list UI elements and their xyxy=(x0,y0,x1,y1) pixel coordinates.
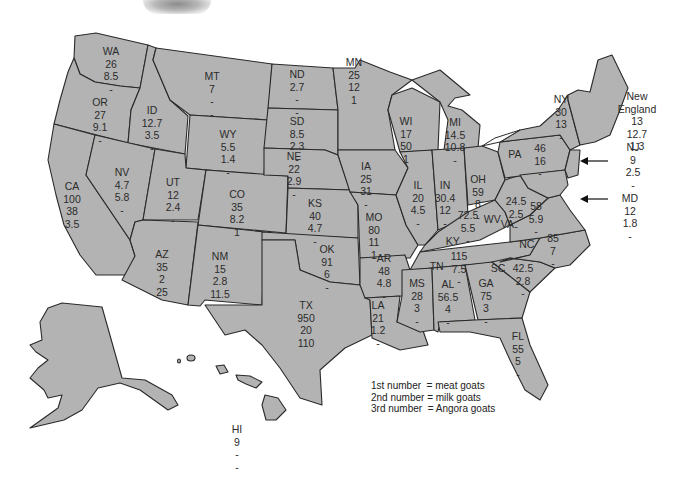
state-abbr: ID xyxy=(142,104,162,117)
meat-goats-value: 80 xyxy=(366,224,383,237)
state-abbr: PA xyxy=(508,148,521,161)
milk-goats-value: 50 xyxy=(400,140,413,153)
meat-goats-value: 12.7 xyxy=(142,117,162,130)
angora-goats-value: - xyxy=(438,316,458,329)
state-label-nm: NM152.811.5 xyxy=(210,250,230,300)
state-label-fl: FL555- xyxy=(512,330,524,380)
state-abbr: MD xyxy=(622,192,638,205)
island-oahu xyxy=(216,365,228,374)
angora-goats-value: 1 xyxy=(400,153,413,166)
state-shape-IA xyxy=(338,150,408,195)
angora-goats-value: - xyxy=(92,134,108,147)
state-label-ks: KS404.7- xyxy=(308,197,323,247)
island-kauai xyxy=(187,355,195,361)
angora-goats-value: - xyxy=(512,368,524,381)
milk-goats-value: 1.2 xyxy=(371,324,386,337)
meat-goats-value: 2.7 xyxy=(289,81,304,94)
legend: 1st number = meat goats 2nd number = mil… xyxy=(371,380,495,415)
state-abbr: OH xyxy=(470,173,486,186)
state-label-co: CO358.21 xyxy=(229,188,245,238)
state-label-ny: NY3013- xyxy=(554,93,569,143)
state-label-ut: UT122.4- xyxy=(166,176,181,226)
milk-goats-value: 2.4 xyxy=(166,201,181,214)
state-label-va: VA585.9- xyxy=(529,200,544,238)
meat-goats-value: 24.5 xyxy=(506,195,526,208)
meat-goats-value: 17 xyxy=(400,128,413,141)
state-abbr: MI xyxy=(445,116,465,129)
milk-goats-value: 1.8 xyxy=(622,217,638,230)
state-abbr: MN xyxy=(346,56,362,69)
angora-goats-value: - xyxy=(232,461,243,474)
state-abbr: IA xyxy=(360,160,372,173)
milk-goats-value: 7.5 xyxy=(451,263,468,276)
meat-goats-value: 4.7 xyxy=(115,179,130,192)
milk-goats-value: - xyxy=(204,95,219,108)
state-abbr: TX xyxy=(297,299,315,312)
meat-goats-value: 8.5 xyxy=(290,128,305,141)
angora-goats-value: - xyxy=(371,337,386,350)
meat-goats-value: 35 xyxy=(155,261,168,274)
md-arrow-head xyxy=(580,195,588,203)
meat-goats-value: 5.5 xyxy=(220,141,237,154)
state-abbr: KY xyxy=(446,235,460,248)
state-abbr: CA xyxy=(63,180,81,193)
state-abbr: HI xyxy=(232,423,243,436)
meat-goats-value: 91 xyxy=(319,256,334,269)
angora-goats-value: - xyxy=(547,257,559,270)
island-maui xyxy=(236,375,262,388)
state-label-wy: WY5.51.4- xyxy=(220,128,237,178)
angora-goats-value: - xyxy=(513,287,533,300)
angora-goats-value: - xyxy=(529,225,544,238)
angora-goats-value: - xyxy=(103,83,120,96)
state-label-md: MD121.8- xyxy=(622,192,638,242)
state-abbr: CO xyxy=(229,188,245,201)
state-label-or: OR279.1- xyxy=(92,96,108,146)
milk-goats-value: 2.8 xyxy=(210,275,230,288)
state-abbr: NE xyxy=(287,150,302,163)
milk-goats-value: 3 xyxy=(409,302,425,315)
milk-goats-value: 8.2 xyxy=(229,213,245,226)
angora-goats-value: - xyxy=(554,131,569,144)
angora-goats-value: - xyxy=(409,315,425,328)
state-label-mt: MT7-- xyxy=(204,70,219,120)
state-label-ca: CA100383.5 xyxy=(63,180,81,230)
state-abbr: FL xyxy=(512,330,524,343)
state-label-nv: NV4.75.8- xyxy=(115,166,130,216)
state-abbr: WA xyxy=(103,45,120,58)
milk-goats-value: 10.8 xyxy=(445,141,465,154)
state-label-new-england: New England1312.71.3 xyxy=(618,90,657,153)
state-label-ok: OK916- xyxy=(319,243,334,293)
state-label-ga: GA753- xyxy=(478,277,493,327)
state-label-ms: MS283- xyxy=(409,277,425,327)
meat-goats-value: 115 xyxy=(451,250,468,263)
state-abbr: LA xyxy=(371,299,386,312)
state-abbr: AL xyxy=(438,278,458,291)
milk-goats-value: 1.4 xyxy=(220,153,237,166)
legend-line-meat: 1st number = meat goats xyxy=(371,380,495,392)
angora-goats-value: - xyxy=(478,315,493,328)
meat-goats-value: 12 xyxy=(622,205,638,218)
milk-goats-value: 4.5 xyxy=(411,204,426,217)
state-label-ar: AR484.8- xyxy=(377,252,392,302)
milk-goats-value: 4.8 xyxy=(377,277,392,290)
meat-goats-value: 14.5 xyxy=(445,129,465,142)
milk-goats-value: 13 xyxy=(554,118,569,131)
milk-goats-value: 5 xyxy=(512,355,524,368)
meat-goats-value: 30.4 xyxy=(435,192,455,205)
angora-goats-value: - xyxy=(626,179,641,192)
milk-goats-value: 3 xyxy=(478,302,493,315)
state-label-mn: MN25121 xyxy=(346,56,362,106)
state-abbr: NY xyxy=(554,93,569,106)
state-label-wv: WV24.52.5- xyxy=(506,195,526,233)
state-label-in: IN30.412- xyxy=(435,179,455,229)
state-abbr: AZ xyxy=(155,248,168,261)
state-abbr: MS xyxy=(409,277,425,290)
meat-goats-value: 75 xyxy=(478,290,493,303)
milk-goats-value: 12 xyxy=(435,204,455,217)
milk-goats-value: 5.9 xyxy=(529,213,544,226)
meat-goats-value: 28 xyxy=(409,290,425,303)
legend-line-milk: 2nd number = milk goats xyxy=(371,392,495,404)
state-abbr: IL xyxy=(411,179,426,192)
angora-goats-value: - xyxy=(534,167,546,180)
meat-goats-value: 12 xyxy=(166,189,181,202)
